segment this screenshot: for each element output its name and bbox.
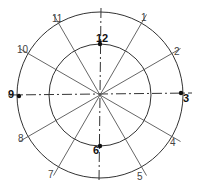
- radial-line-7: [54, 95, 101, 176]
- hour-label-5: 5: [137, 171, 143, 182]
- hour-label-8: 8: [18, 133, 24, 144]
- radial-line-4: [100, 95, 181, 142]
- clock-diagram: 121234567891011: [0, 0, 199, 190]
- hour-label-1: 1: [141, 12, 147, 23]
- radial-line-2: [100, 49, 181, 96]
- radial-line-11: [54, 14, 101, 95]
- radial-line-5: [100, 95, 147, 176]
- hour-label-11: 11: [52, 13, 63, 24]
- hour-label-3: 3: [183, 92, 189, 104]
- radial-line-10: [19, 49, 100, 96]
- hour-label-10: 10: [17, 44, 29, 55]
- hour-label-2: 2: [174, 46, 180, 57]
- hour-label-12: 12: [96, 32, 108, 44]
- hour-label-6: 6: [93, 144, 99, 156]
- hour-label-9: 9: [8, 88, 14, 100]
- hour-label-7: 7: [48, 169, 54, 180]
- hour-label-4: 4: [170, 137, 176, 148]
- radial-line-1: [100, 14, 147, 95]
- radial-line-8: [19, 95, 100, 142]
